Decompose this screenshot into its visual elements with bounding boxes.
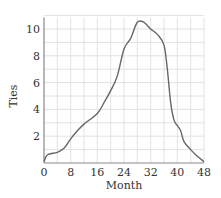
x-tick-label: 32 [144,166,158,179]
y-axis-label: Ties [7,84,20,107]
x-tick-label: 16 [90,166,104,179]
y-tick-labels: 246810 [26,23,40,143]
gridlines [44,16,204,163]
y-tick-label: 2 [33,130,40,143]
x-tick-labels: 081624324048 [41,166,212,179]
line-chart: 081624324048 246810 Month Ties [0,0,221,198]
y-tick-label: 6 [33,77,40,90]
x-tick-label: 24 [117,166,131,179]
x-tick-label: 40 [170,166,184,179]
y-tick-label: 8 [33,50,40,63]
y-tick-label: 10 [26,23,40,36]
x-axis-label: Month [106,179,142,192]
y-tick-label: 4 [33,103,40,116]
x-tick-label: 8 [67,166,74,179]
x-tick-label: 48 [197,166,211,179]
x-tick-label: 0 [41,166,48,179]
